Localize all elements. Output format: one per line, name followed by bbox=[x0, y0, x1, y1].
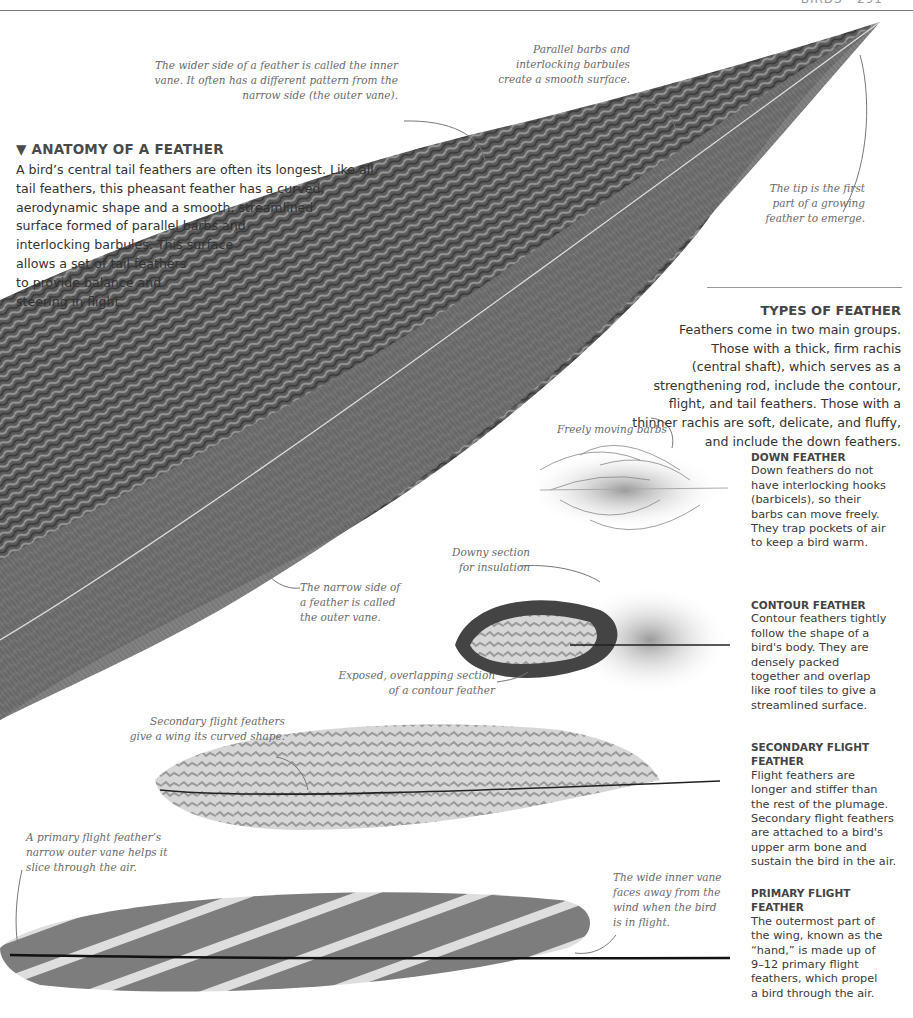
text-line: the rest of the plumage. bbox=[751, 798, 911, 812]
section-title-types: TYPES OF FEATHER bbox=[761, 303, 902, 318]
annotation-line: is in flight. bbox=[613, 915, 743, 930]
text-line: bird's body. They are bbox=[751, 641, 911, 655]
text-line: tail feathers, this pheasant feather has… bbox=[16, 180, 366, 199]
text-line: The outermost part of bbox=[751, 915, 911, 929]
annotation-primary: A primary flight feather’s narrow outer … bbox=[26, 830, 206, 875]
annotation-secondary: Secondary flight feathers give a wing it… bbox=[110, 714, 285, 744]
annotation-line: for insulation bbox=[430, 560, 530, 575]
text-line: Contour feathers tightly bbox=[751, 612, 911, 626]
annotation-line: Parallel barbs and bbox=[470, 42, 630, 57]
text-line: follow the shape of a bbox=[751, 627, 911, 641]
contour-feather-image bbox=[455, 585, 730, 695]
annotation-line: part of a growing bbox=[755, 196, 865, 211]
text-line: Secondary flight feathers bbox=[751, 812, 911, 826]
panel-title: DOWN FEATHER bbox=[751, 450, 911, 464]
panel-title: FEATHER bbox=[751, 754, 911, 768]
annotation-line: of a contour feather bbox=[315, 683, 495, 698]
text-line: flight, and tail feathers. Those with a bbox=[632, 395, 901, 414]
text-line: longer and stiffer than bbox=[751, 783, 911, 797]
panel-title: SECONDARY FLIGHT bbox=[751, 740, 911, 754]
title-text: ANATOMY OF A FEATHER bbox=[32, 141, 224, 157]
annotation-line: The wider side of a feather is called th… bbox=[128, 58, 398, 73]
annotation-line: the outer vane. bbox=[300, 610, 420, 625]
text-line: like roof tiles to give a bbox=[751, 684, 911, 698]
annotation-tip: The tip is the first part of a growing f… bbox=[755, 181, 865, 226]
annotation-line: narrow outer vane helps it bbox=[26, 845, 206, 860]
annotation-line: interlocking barbules bbox=[470, 57, 630, 72]
annotation-line: The tip is the first bbox=[755, 181, 865, 196]
panel-down-feather: DOWN FEATHER Down feathers do not have i… bbox=[751, 450, 911, 551]
annotation-line: a feather is called bbox=[300, 595, 420, 610]
section-divider bbox=[707, 287, 902, 288]
text-line: together and overlap bbox=[751, 670, 911, 684]
text-line: They trap pockets of air bbox=[751, 522, 911, 536]
text-line: “hand,” is made up of bbox=[751, 944, 911, 958]
text-line: 9–12 primary flight bbox=[751, 958, 911, 972]
text-line: Flight feathers are bbox=[751, 769, 911, 783]
text-line: Down feathers do not bbox=[751, 464, 911, 478]
annotation-line: Secondary flight feathers bbox=[110, 714, 285, 729]
text-line: sustain the bird in the air. bbox=[751, 855, 911, 869]
panel-title: CONTOUR FEATHER bbox=[751, 598, 911, 612]
section-title-anatomy: ▼ ANATOMY OF A FEATHER bbox=[16, 141, 224, 157]
annotation-line: faces away from the bbox=[613, 885, 743, 900]
annotation-line: narrow side (the outer vane). bbox=[128, 88, 398, 103]
annotation-exposed-section: Exposed, overlapping section of a contou… bbox=[315, 668, 495, 698]
text-line: to provide balance and bbox=[16, 274, 366, 293]
intro-paragraph: A bird’s central tail feathers are often… bbox=[16, 161, 366, 311]
annotation-outer-vane: The narrow side of a feather is called t… bbox=[300, 580, 420, 625]
text-line: allows a set of tail feathers bbox=[16, 255, 366, 274]
text-line: to keep a bird warm. bbox=[751, 536, 911, 550]
annotation-freely-moving: Freely moving barbs bbox=[557, 422, 677, 437]
panel-secondary-flight-feather: SECONDARY FLIGHT FEATHER Flight feathers… bbox=[751, 740, 911, 870]
annotation-line: The wide inner vane bbox=[613, 870, 743, 885]
text-line: Feathers come in two main groups. bbox=[632, 321, 901, 340]
annotation-line: A primary flight feather’s bbox=[26, 830, 206, 845]
text-line: interlocking barbules. This surface bbox=[16, 236, 366, 255]
panel-title: FEATHER bbox=[751, 900, 911, 914]
panel-contour-feather: CONTOUR FEATHER Contour feathers tightly… bbox=[751, 598, 911, 713]
annotation-inner-vane: The wider side of a feather is called th… bbox=[128, 58, 398, 103]
annotation-wide-inner-vane: The wide inner vane faces away from the … bbox=[613, 870, 743, 930]
annotation-barbs: Parallel barbs and interlocking barbules… bbox=[470, 42, 630, 87]
panel-title: PRIMARY FLIGHT bbox=[751, 886, 911, 900]
text-line: aerodynamic shape and a smooth, streamli… bbox=[16, 199, 366, 218]
annotation-line: give a wing its curved shape. bbox=[110, 729, 285, 744]
text-line: feathers, which propel bbox=[751, 972, 911, 986]
annotation-line: Downy section bbox=[430, 545, 530, 560]
panel-primary-flight-feather: PRIMARY FLIGHT FEATHER The outermost par… bbox=[751, 886, 911, 1001]
annotation-line: Exposed, overlapping section bbox=[315, 668, 495, 683]
annotation-line: feather to emerge. bbox=[755, 211, 865, 226]
text-line: upper arm bone and bbox=[751, 841, 911, 855]
text-line: surface formed of parallel barbs and bbox=[16, 217, 366, 236]
text-line: steering in flight. bbox=[16, 293, 366, 312]
text-line: a bird through the air. bbox=[751, 987, 911, 1001]
annotation-line: Freely moving barbs bbox=[557, 422, 677, 437]
text-line: Those with a thick, firm rachis bbox=[632, 340, 901, 359]
text-line: have interlocking hooks bbox=[751, 479, 911, 493]
text-line: (barbicels), so their bbox=[751, 493, 911, 507]
text-line: strengthening rod, include the contour, bbox=[632, 377, 901, 396]
annotation-downy-section: Downy section for insulation bbox=[430, 545, 530, 575]
text-line: streamlined surface. bbox=[751, 699, 911, 713]
text-line: densely packed bbox=[751, 656, 911, 670]
triangle-down-icon: ▼ bbox=[16, 141, 27, 157]
down-feather-image bbox=[525, 445, 728, 530]
text-line: barbs can move freely. bbox=[751, 508, 911, 522]
annotation-line: wind when the bird bbox=[613, 900, 743, 915]
text-line: are attached to a bird's bbox=[751, 826, 911, 840]
annotation-line: The narrow side of bbox=[300, 580, 420, 595]
text-line: the wing, known as the bbox=[751, 929, 911, 943]
annotation-line: vane. It often has a different pattern f… bbox=[128, 73, 398, 88]
text-line: A bird’s central tail feathers are often… bbox=[16, 161, 366, 180]
text-line: (central shaft), which serves as a bbox=[632, 358, 901, 377]
annotation-line: slice through the air. bbox=[26, 860, 206, 875]
annotation-line: create a smooth surface. bbox=[470, 72, 630, 87]
